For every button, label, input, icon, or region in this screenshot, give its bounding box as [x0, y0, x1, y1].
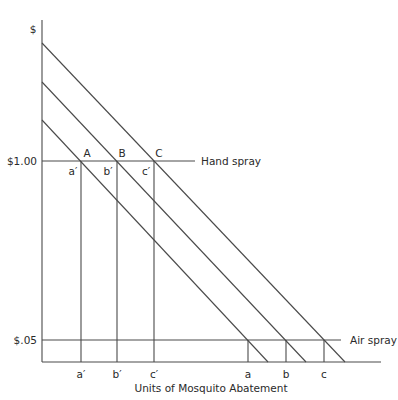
x-tick-c: c: [321, 368, 327, 380]
inner-label-c-prime: c′: [142, 165, 151, 177]
demand-curve-middle: [42, 82, 306, 362]
point-c-label: C: [155, 147, 162, 159]
demand-curve-highest: [42, 43, 345, 362]
x-tick-c-prime: c′: [150, 368, 159, 380]
x-tick-b-prime: b′: [112, 368, 122, 380]
hand-spray-label: Hand spray: [201, 155, 261, 167]
point-a-label: A: [83, 147, 91, 159]
price-label-hand: $1.00: [7, 155, 37, 167]
price-label-air: $.05: [14, 334, 37, 346]
x-tick-a-prime: a′: [77, 368, 86, 380]
y-axis-label: $: [30, 23, 37, 35]
inner-label-a-prime: a′: [69, 165, 78, 177]
x-axis-title: Units of Mosquito Abatement: [134, 382, 287, 394]
air-spray-label: Air spray: [350, 334, 397, 346]
mosquito-abatement-diagram: $ $1.00 $.05 Hand spray Air spray A B C …: [0, 0, 398, 400]
point-b-label: B: [118, 147, 125, 159]
x-tick-b: b: [283, 368, 290, 380]
inner-label-b-prime: b′: [103, 165, 113, 177]
x-tick-a: a: [245, 368, 251, 380]
